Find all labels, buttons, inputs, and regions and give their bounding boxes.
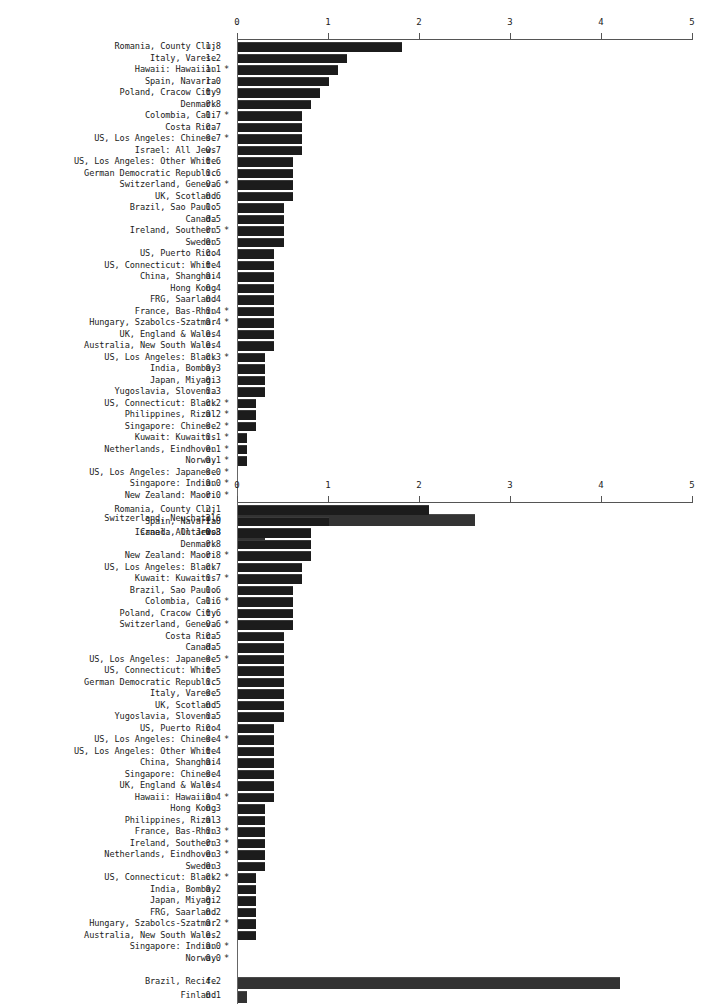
- bar-row-label: Hawaii: Hawaiian: [0, 64, 216, 76]
- bar-row: German Democratic Republic0.5: [0, 677, 705, 689]
- bar-row-label: Denmark: [0, 539, 216, 551]
- bar: [238, 100, 311, 110]
- bar: [238, 885, 256, 895]
- bar-row-label: US, Los Angeles: Other White: [0, 156, 216, 168]
- bar-row-value: 0.5: [188, 631, 221, 643]
- bar-row: Spain, Navarra1.0: [0, 516, 705, 528]
- bar-row-value: 0.4: [188, 329, 221, 341]
- bar-row-label: France, Bas-Rhin: [0, 306, 216, 318]
- bar-row-asterisk: *: [224, 409, 234, 421]
- bar-row: US, Los Angeles: Black0.7: [0, 562, 705, 574]
- bar-row: Poland, Cracow City0.9: [0, 87, 705, 99]
- bar-row-value: 0.2: [188, 918, 221, 930]
- bar-row: Netherlands, Eindhoven0.1*: [0, 444, 705, 456]
- bar-row-label: US, Connecticut: White: [0, 665, 216, 677]
- bar-row-label: Costa Rica: [0, 122, 216, 134]
- bar-row-value: 0.2: [188, 884, 221, 896]
- bar-row: Canada0.5: [0, 642, 705, 654]
- bar-row-label: Hungary, Szabolcs-Szatmar: [0, 918, 216, 930]
- bar: [238, 203, 284, 213]
- bar: [238, 862, 265, 872]
- bar: [238, 284, 274, 294]
- bar-row-value: 0.6: [188, 619, 221, 631]
- bar-row-label: US, Puerto Rico: [0, 248, 216, 260]
- bar-row: France, Bas-Rhin0.3*: [0, 826, 705, 838]
- bar-row-value: 0.4: [188, 283, 221, 295]
- bar: [238, 991, 247, 1003]
- bar-row-label: Poland, Cracow City: [0, 608, 216, 620]
- bar: [238, 134, 302, 144]
- bar-row: Hungary, Szabolcs-Szatmar0.4*: [0, 317, 705, 329]
- bar-row-label: US, Connecticut: White: [0, 260, 216, 272]
- bar: [238, 88, 320, 98]
- bar-row-asterisk: *: [224, 306, 234, 318]
- bar-row: Canada0.5: [0, 214, 705, 226]
- bar-row: US, Connecticut: White0.5: [0, 665, 705, 677]
- bar-row-label: US, Connecticut: Black: [0, 872, 216, 884]
- bar-row-label: Kuwait: Kuwaitis: [0, 573, 216, 585]
- bar-row-label: Sweden: [0, 237, 216, 249]
- bar-row-asterisk: *: [224, 792, 234, 804]
- bar: [238, 781, 274, 791]
- axis-line: [237, 39, 693, 40]
- bar: [238, 387, 265, 397]
- bar-row-asterisk: *: [224, 849, 234, 861]
- bar: [238, 655, 284, 665]
- bar-row-value: 0.6: [188, 608, 221, 620]
- bar: [238, 399, 256, 409]
- bar: [238, 307, 274, 317]
- bar-row-label: Japan, Miyagi: [0, 375, 216, 387]
- bar-row-value: 0.3: [188, 849, 221, 861]
- bar-row-label: Ireland, Southern: [0, 838, 216, 850]
- bar-row-label: China, Shanghai: [0, 271, 216, 283]
- bar-row-value: 0.5: [188, 654, 221, 666]
- bar-row-value: 0.4: [188, 746, 221, 758]
- bar-row-value: 0.4: [188, 306, 221, 318]
- bar-row-value: 0.9: [188, 87, 221, 99]
- bar: [238, 422, 256, 432]
- bar-row: US, Los Angeles: Japanese0.5*: [0, 654, 705, 666]
- bar-row-value: 0.5: [188, 711, 221, 723]
- bar: [238, 157, 293, 167]
- axis-line: [237, 502, 693, 503]
- bar-row-label: Japan, Miyagi: [0, 895, 216, 907]
- bar-row-asterisk: *: [224, 550, 234, 562]
- bar-row: Finland0.1: [0, 990, 705, 1004]
- bar-row-value: 0.6: [188, 191, 221, 203]
- bar-row: UK, Scotland0.5: [0, 700, 705, 712]
- bar: [238, 192, 293, 202]
- bar-row-value: 0.4: [188, 780, 221, 792]
- bar-row: Poland, Cracow City0.6: [0, 608, 705, 620]
- bar-row-asterisk: *: [224, 64, 234, 76]
- bar: [238, 666, 284, 676]
- bar: [238, 456, 247, 466]
- axis-tick-label: 1: [318, 17, 338, 28]
- bar-row-label: Romania, County Cluj: [0, 41, 216, 53]
- bar-row-label: Colombia, Cali: [0, 110, 216, 122]
- bar-row: Ireland, Southern0.5*: [0, 225, 705, 237]
- bar-row-asterisk: *: [224, 872, 234, 884]
- bar-row-value: 0.1: [188, 455, 221, 467]
- bar: [238, 528, 311, 538]
- bar-row-asterisk: *: [224, 398, 234, 410]
- bar-row-asterisk: *: [224, 826, 234, 838]
- bar-row-value: 0.6: [188, 168, 221, 180]
- bar: [238, 42, 402, 52]
- bar-rows-bottom: Romania, County Cluj2.1Spain, Navarra1.0…: [0, 504, 705, 1004]
- bar-row-label: India, Bombay: [0, 363, 216, 375]
- bar-row-label: Hong Kong: [0, 283, 216, 295]
- axis-tick-label: 0: [227, 480, 247, 491]
- axis-tick-label: 5: [682, 17, 702, 28]
- axis-tick: [510, 496, 511, 503]
- bar-row-value: 0.1: [188, 990, 221, 1002]
- bar: [238, 643, 284, 653]
- bar-row-label: US, Los Angeles: Black: [0, 352, 216, 364]
- bar-row-label: Philippines, Rizal: [0, 409, 216, 421]
- axis-tick: [328, 496, 329, 503]
- bar-row: Hong Kong0.4: [0, 283, 705, 295]
- bar-row-label: Italy, Varese: [0, 688, 216, 700]
- bar-row-asterisk: *: [224, 619, 234, 631]
- bar-row: New Zealand: Maori0.8*: [0, 550, 705, 562]
- bar-row: Spain, Navarra1.0: [0, 76, 705, 88]
- bar-row-value: 0.3: [188, 815, 221, 827]
